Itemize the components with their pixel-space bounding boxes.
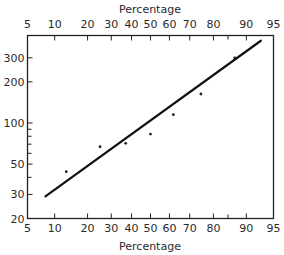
x-tick-label-top: 50 xyxy=(144,18,158,31)
top-axis-title: Percentage xyxy=(119,3,181,16)
x-tick-label-top: 20 xyxy=(81,18,95,31)
x-tick-label-bottom: 20 xyxy=(81,222,95,235)
x-tick-label-bottom: 50 xyxy=(144,222,158,235)
y-tick-label: 50 xyxy=(11,158,25,171)
y-tick-label: 100 xyxy=(4,117,25,130)
x-tick-label-top: 5 xyxy=(24,18,31,31)
data-point xyxy=(149,133,152,136)
x-tick-label-bottom: 80 xyxy=(206,222,220,235)
x-tick-label-top: 90 xyxy=(239,18,253,31)
y-tick-label: 200 xyxy=(4,76,25,89)
bottom-x-axis-ticks: 510203040506070809095 xyxy=(24,214,281,236)
x-tick-label-top: 40 xyxy=(125,18,139,31)
x-tick-label-bottom: 10 xyxy=(48,222,62,235)
x-tick-label-bottom: 95 xyxy=(267,222,281,235)
x-tick-label-bottom: 90 xyxy=(239,222,253,235)
fitted-line xyxy=(45,41,260,197)
x-tick-label-top: 95 xyxy=(267,18,281,31)
probability-plot: Percentage Percentage 510203040506070809… xyxy=(0,0,284,255)
data-point xyxy=(200,93,203,96)
x-tick-label-bottom: 60 xyxy=(162,222,176,235)
x-tick-label-top: 80 xyxy=(206,18,220,31)
x-tick-label-top: 60 xyxy=(162,18,176,31)
data-point xyxy=(99,145,102,148)
y-tick-label: 300 xyxy=(4,52,25,65)
data-point xyxy=(172,113,175,116)
bottom-axis-title: Percentage xyxy=(119,240,181,253)
x-tick-label-bottom: 5 xyxy=(24,222,31,235)
plot-frame xyxy=(28,36,274,219)
y-tick-label: 20 xyxy=(11,213,25,226)
data-point xyxy=(65,170,68,173)
data-series xyxy=(45,41,260,197)
x-tick-label-top: 30 xyxy=(104,18,118,31)
data-point xyxy=(124,142,127,145)
x-tick-label-bottom: 30 xyxy=(104,222,118,235)
top-x-axis-ticks: 510203040506070809095 xyxy=(24,18,281,41)
x-tick-label-bottom: 40 xyxy=(125,222,139,235)
y-tick-label: 30 xyxy=(11,188,25,201)
x-tick-label-top: 10 xyxy=(48,18,62,31)
x-tick-label-bottom: 70 xyxy=(183,222,197,235)
x-tick-label-top: 70 xyxy=(183,18,197,31)
